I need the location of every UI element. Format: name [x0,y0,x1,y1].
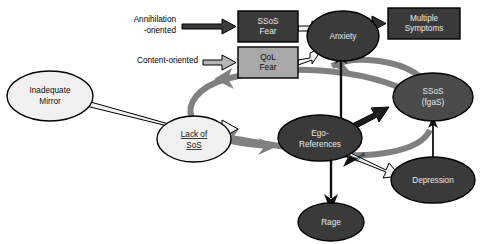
node-ssos-fgas-label-1: SSoS [423,87,444,96]
box-multiple-symptoms-label-1: Multiple [410,14,439,23]
box-multiple-symptoms[interactable]: Multiple Symptoms [388,8,460,39]
node-depression[interactable]: Depression [391,157,475,203]
diagram-canvas: SSoS Fear QoL Fear Multiple Symptoms Ina… [0,0,490,244]
node-ego-references-label-1: Ego- [311,129,329,138]
node-rage[interactable]: Rage [298,203,364,241]
arrow-content-to-qolfear [203,55,236,70]
box-qol-fear-label-2: Fear [260,63,277,72]
node-anxiety[interactable]: Anxiety [307,11,379,61]
label-annihilation-line1: Annihilation [134,15,177,24]
box-ssos-fear-label-1: SSoS [258,17,279,26]
box-qol-fear[interactable]: QoL Fear [238,47,298,78]
label-content-oriented: Content-oriented [137,56,198,65]
node-lack-of-sos-label-2: SoS [186,141,202,150]
node-inadequate-mirror-label-2: Mirror [39,97,61,106]
node-lack-of-sos[interactable]: Lack of SoS [157,116,231,162]
box-ssos-fear-label-2: Fear [260,27,277,36]
node-ssos-fgas[interactable]: SSoS (fgaS) [393,73,473,121]
node-depression-label: Depression [412,176,454,185]
arrow-annihilation-to-ssosfear [182,19,236,34]
box-multiple-symptoms-label-2: Symptoms [405,24,444,33]
box-ssos-fear[interactable]: SSoS Fear [238,11,298,42]
node-ssos-fgas-label-2: (fgaS) [422,98,445,107]
node-ego-references-label-2: References [299,140,341,149]
node-inadequate-mirror-label-1: Inadequate [30,86,71,95]
node-ego-references[interactable]: Ego- References [278,115,362,161]
label-annihilation-line2: -oriented [144,26,177,35]
node-rage-label: Rage [321,218,341,227]
box-qol-fear-label-1: QoL [260,53,276,62]
node-lack-of-sos-label-1: Lack of [181,130,208,139]
diagram-svg: SSoS Fear QoL Fear Multiple Symptoms Ina… [0,0,490,244]
node-anxiety-label: Anxiety [330,32,358,41]
node-inadequate-mirror[interactable]: Inadequate Mirror [7,71,93,121]
